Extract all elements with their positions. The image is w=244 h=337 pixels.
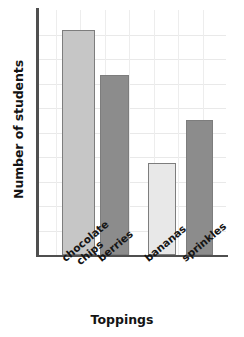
plot-area bbox=[38, 10, 226, 255]
x-axis-tick-labels: chocolatechipsberriesbananassprinkles bbox=[0, 255, 244, 313]
x-axis-title: Toppings bbox=[0, 312, 244, 327]
y-axis-title-text: Number of students bbox=[11, 60, 26, 199]
y-axis-title: Number of students bbox=[0, 0, 36, 258]
y-axis-line bbox=[36, 8, 39, 257]
bar-chart: Number of students chocolatechipsberries… bbox=[0, 0, 244, 337]
bars-layer bbox=[38, 10, 226, 255]
bar-chocolate-chips bbox=[62, 30, 95, 255]
